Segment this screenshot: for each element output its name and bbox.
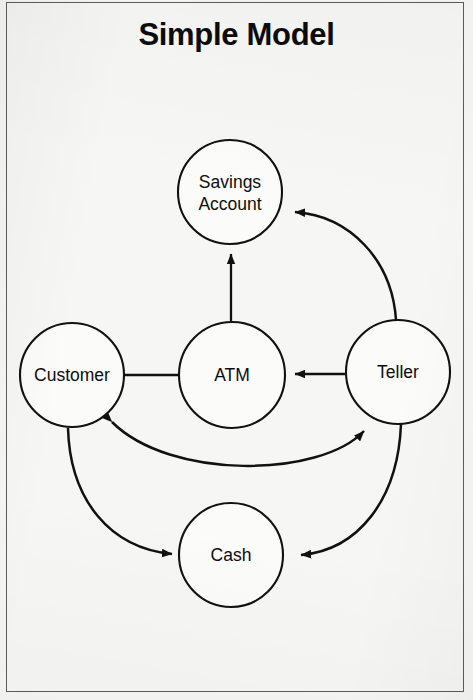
node-teller[interactable]: Teller	[346, 320, 450, 424]
arrow-customer-to-cash	[68, 428, 172, 554]
arrow-teller-to-savings	[295, 212, 396, 320]
edge-teller-to-cash	[301, 424, 401, 555]
node-atm[interactable]: ATM	[179, 322, 285, 428]
savings-account-label-line2: Account	[198, 194, 261, 214]
savings-account-label-line1: Savings	[199, 172, 262, 192]
diagram-page: Simple Model	[0, 0, 473, 700]
diagram-canvas: Savings Account Customer ATM Teller Cash	[0, 0, 473, 700]
node-customer[interactable]: Customer	[20, 323, 124, 427]
customer-label: Customer	[34, 365, 110, 385]
edge-teller-to-savings	[295, 212, 396, 320]
cash-label: Cash	[211, 545, 252, 565]
node-savings-account[interactable]: Savings Account	[178, 140, 282, 244]
edge-customer-to-cash	[68, 428, 172, 554]
node-cash[interactable]: Cash	[179, 503, 283, 607]
savings-account-circle[interactable]	[178, 140, 282, 244]
atm-label: ATM	[214, 365, 250, 385]
teller-label: Teller	[377, 362, 419, 382]
arrow-teller-to-cash	[301, 424, 401, 555]
